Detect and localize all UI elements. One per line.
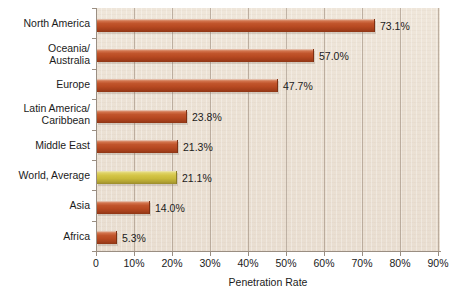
x-tick-label: 50% bbox=[275, 257, 296, 269]
x-tick-label: 60% bbox=[313, 257, 334, 269]
category-label: World, Average bbox=[19, 169, 90, 181]
gridline-80% bbox=[400, 8, 401, 251]
penetration-rate-bar-chart: 010%20%30%40%50%60%70%80%90% North Ameri… bbox=[0, 0, 462, 299]
category-label: Oceania/ Australia bbox=[48, 42, 90, 66]
value-label: 14.0% bbox=[155, 202, 185, 215]
x-axis-title: Penetration Rate bbox=[96, 276, 440, 288]
x-tick-label: 90% bbox=[427, 257, 448, 269]
x-tick-mark bbox=[248, 252, 249, 256]
y-tick-mark bbox=[92, 69, 96, 70]
bar-africa[interactable] bbox=[97, 231, 117, 244]
gridline-40% bbox=[248, 8, 249, 251]
y-tick-mark bbox=[92, 190, 96, 191]
value-label: 23.8% bbox=[192, 111, 222, 124]
x-tick-label: 70% bbox=[351, 257, 372, 269]
x-tick-label: 10% bbox=[123, 257, 144, 269]
bar-europe[interactable] bbox=[97, 79, 278, 92]
bar-asia[interactable] bbox=[97, 201, 150, 214]
x-tick-mark bbox=[134, 252, 135, 256]
category-label: Latin America/ Caribbean bbox=[23, 102, 90, 126]
x-tick-label: 20% bbox=[161, 257, 182, 269]
gridline-60% bbox=[324, 8, 325, 251]
x-tick-mark bbox=[438, 252, 439, 256]
y-tick-mark bbox=[92, 221, 96, 222]
x-tick-label: 30% bbox=[199, 257, 220, 269]
x-tick-mark bbox=[286, 252, 287, 256]
value-label: 5.3% bbox=[122, 232, 146, 245]
y-tick-mark bbox=[92, 251, 96, 252]
x-tick-label: 0 bbox=[93, 257, 99, 269]
value-label: 47.7% bbox=[283, 80, 313, 93]
bar-world-average[interactable] bbox=[97, 171, 177, 184]
value-label: 21.3% bbox=[183, 141, 213, 154]
y-tick-mark bbox=[92, 130, 96, 131]
bar-latin-america-caribbean[interactable] bbox=[97, 110, 187, 123]
y-axis-line bbox=[96, 8, 97, 252]
y-tick-mark bbox=[92, 8, 96, 9]
x-tick-mark bbox=[172, 252, 173, 256]
category-label: North America bbox=[23, 17, 90, 29]
x-tick-label: 80% bbox=[389, 257, 410, 269]
bar-middle-east[interactable] bbox=[97, 140, 178, 153]
gridline-50% bbox=[286, 8, 287, 251]
x-axis-line bbox=[96, 251, 441, 252]
gridline-70% bbox=[362, 8, 363, 251]
x-tick-mark bbox=[324, 252, 325, 256]
category-label: Africa bbox=[63, 230, 90, 242]
category-label: Asia bbox=[70, 199, 90, 211]
plot-area bbox=[96, 8, 440, 251]
bar-oceania-australia[interactable] bbox=[97, 49, 314, 62]
x-tick-mark bbox=[96, 252, 97, 256]
y-tick-mark bbox=[92, 99, 96, 100]
gridline-30% bbox=[210, 8, 211, 251]
x-tick-mark bbox=[400, 252, 401, 256]
value-label: 57.0% bbox=[319, 50, 349, 63]
x-tick-mark bbox=[362, 252, 363, 256]
category-label: Middle East bbox=[35, 139, 90, 151]
x-tick-label: 40% bbox=[237, 257, 258, 269]
y-tick-mark bbox=[92, 160, 96, 161]
y-tick-mark bbox=[92, 38, 96, 39]
x-tick-mark bbox=[210, 252, 211, 256]
value-label: 21.1% bbox=[182, 172, 212, 185]
gridline-90% bbox=[438, 8, 439, 251]
category-label: Europe bbox=[56, 78, 90, 90]
value-label: 73.1% bbox=[380, 20, 410, 33]
bar-north-america[interactable] bbox=[97, 19, 375, 32]
